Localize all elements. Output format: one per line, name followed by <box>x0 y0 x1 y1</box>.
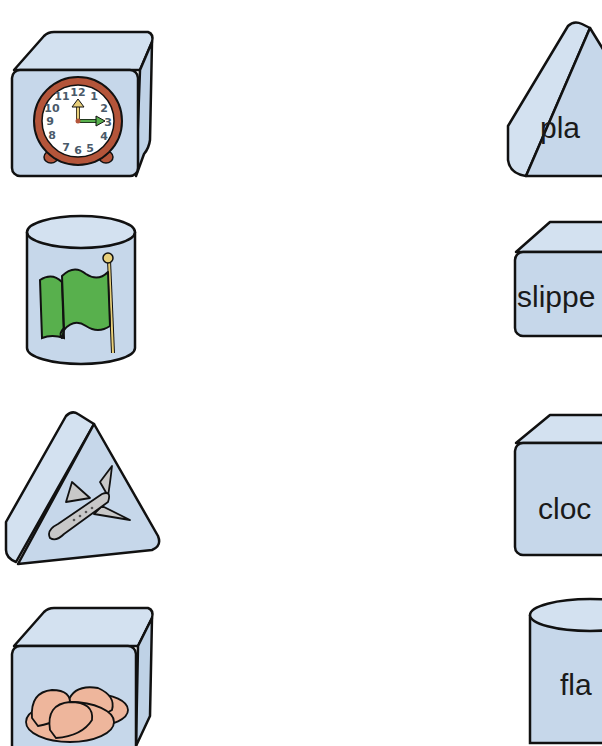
svg-text:4: 4 <box>100 130 108 143</box>
word-label: fla <box>560 668 592 702</box>
svg-text:9: 9 <box>46 115 54 128</box>
word-block-slippers[interactable]: slippe <box>514 220 594 340</box>
word-label: pla <box>540 111 580 145</box>
svg-text:1: 1 <box>90 90 98 103</box>
picture-block-plane[interactable] <box>2 410 164 570</box>
word-label: cloc <box>538 492 591 526</box>
word-label: slippe <box>517 280 595 314</box>
svg-text:2: 2 <box>100 102 108 115</box>
svg-text:7: 7 <box>62 141 70 154</box>
svg-text:11: 11 <box>54 90 69 103</box>
word-block-plane[interactable]: pla <box>502 20 602 180</box>
picture-block-clock[interactable]: 12 1 2 3 4 5 6 7 8 9 10 11 <box>8 30 156 180</box>
svg-text:8: 8 <box>48 129 56 142</box>
svg-text:6: 6 <box>74 144 82 157</box>
svg-text:10: 10 <box>44 102 60 115</box>
picture-block-flag[interactable] <box>24 210 139 370</box>
svg-text:12: 12 <box>70 86 85 99</box>
svg-text:3: 3 <box>104 116 112 129</box>
word-block-flag[interactable]: fla <box>528 593 588 743</box>
word-block-clock[interactable]: cloc <box>514 413 594 558</box>
clock-icon: 12 1 2 3 4 5 6 7 8 9 10 11 <box>34 77 122 165</box>
svg-text:5: 5 <box>86 142 94 155</box>
picture-block-slippers[interactable] <box>8 606 156 746</box>
